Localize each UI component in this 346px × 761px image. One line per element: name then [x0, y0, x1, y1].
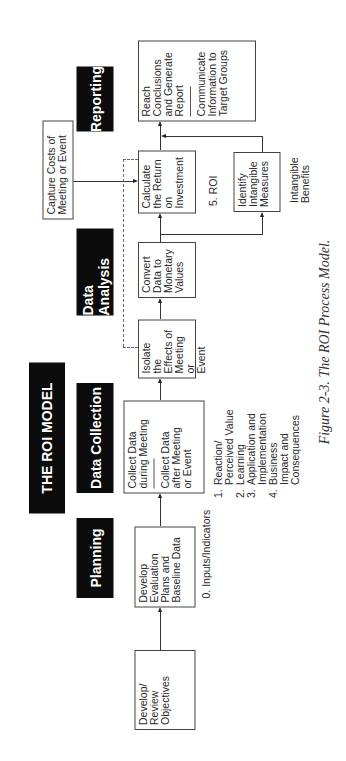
phase-label-data-collection: Data Collection	[76, 383, 113, 493]
arrow-head	[158, 607, 162, 612]
arrow-head	[158, 121, 162, 126]
box-text-reach: Reach Conclusions and Generate Report	[141, 45, 185, 116]
box-develop-evaluation-plans: Develop Evaluation Plans and Baseline Da…	[134, 526, 195, 607]
box-identify-intangibles: Identify Intangible Measures	[233, 152, 280, 212]
dashed-connector-top	[123, 159, 138, 160]
connector-branch-up	[262, 217, 263, 234]
box-capture-costs: Capture Costs of Meeting or Event	[42, 120, 73, 219]
levels-list: 1. Reaction/ Perceived Value 2. Learning…	[213, 398, 305, 498]
box-text: Capture Costs of Meeting or Event	[45, 125, 67, 214]
connector-identify-up	[262, 136, 263, 152]
connector-collect-to-isolate	[160, 383, 161, 400]
box-develop-review-objectives: Develop/ Review Objectives	[134, 650, 195, 730]
connector-convert-to-calculate	[160, 218, 161, 242]
phase-label-data-analysis: Data Analysis	[76, 228, 113, 315]
box-text: Isolate the Effects of Meeting or Event	[141, 324, 207, 373]
box-calculate-roi: Calculate the Return on Investment	[138, 150, 196, 213]
annotation-inputs: 0. Inputs/Indicators	[201, 505, 215, 598]
box-text: Convert Data to Monetary Values	[141, 247, 185, 293]
box-text: Calculate the Return on Investment	[141, 155, 185, 208]
dashed-connector-bottom	[123, 347, 138, 348]
box-text: Identify Intangible Measures	[236, 157, 269, 207]
box-convert-data: Convert Data to Monetary Values	[138, 242, 196, 298]
level-text: Application and Implementation	[246, 413, 268, 485]
box-text: Develop/ Review Objectives	[137, 655, 170, 725]
divider	[190, 86, 191, 116]
connector-identify-left	[166, 136, 263, 137]
divider	[153, 458, 154, 488]
arrow-head	[161, 134, 166, 138]
arrow-head	[260, 212, 264, 217]
phase-reporting-text: Reporting	[76, 66, 113, 131]
box-collect-data: Collect Data during Meeting Collect Data…	[123, 400, 204, 493]
level-item: 4. Business Impact and Consequences	[268, 398, 301, 498]
phase-data-collection-text: Data Collection	[76, 383, 113, 493]
annotation-roi: 5. ROI	[208, 160, 222, 206]
box-text-after: Collect Data after Meeting or Event	[159, 405, 192, 488]
box-text-communicate: Communicate Information to Target Groups	[196, 45, 229, 116]
arrow-head	[158, 378, 162, 383]
box-isolate-effects: Isolate the Effects of Meeting or Event	[138, 319, 196, 378]
connector-branch-to-identify	[160, 234, 263, 235]
level-text: Business Impact and Consequences	[268, 415, 301, 485]
box-reach-conclusions: Reach Conclusions and Generate Report Co…	[138, 40, 256, 121]
dashed-connector-vertical	[123, 159, 124, 347]
arrow-head	[158, 213, 162, 218]
level-item: 1. Reaction/ Perceived Value	[213, 398, 235, 498]
title-text: THE ROI MODEL	[29, 362, 65, 513]
connector-isolate-to-convert	[160, 303, 161, 319]
title-label: THE ROI MODEL	[29, 362, 65, 513]
phase-data-analysis-text: Data Analysis	[76, 228, 113, 315]
level-number: 1.	[213, 485, 235, 498]
figure-caption: Figure 2-3. The ROI Process Model.	[314, 192, 336, 492]
box-text: Develop Evaluation Plans and Baseline Da…	[137, 531, 181, 602]
connector-capture-to-calculate	[73, 181, 133, 182]
phase-planning-text: Planning	[76, 518, 113, 598]
connector-plans-to-collect	[160, 498, 161, 526]
level-number: 4.	[268, 485, 301, 498]
arrow-head	[158, 298, 162, 303]
phase-label-reporting: Reporting	[76, 66, 113, 131]
level-text: Reaction/ Perceived Value	[213, 409, 235, 485]
annotation-intangible-text: Intangible Benefits	[289, 157, 311, 203]
phase-label-planning: Planning	[76, 518, 113, 598]
connector-calculate-to-reach	[160, 126, 161, 150]
figure-caption-text: Figure 2-3. The ROI Process Model.	[314, 192, 336, 492]
box-text-during: Collect Data during Meeting	[126, 405, 148, 488]
arrow-head	[158, 493, 162, 498]
annotation-roi-text: 5. ROI	[208, 160, 219, 206]
annotation-intangible-benefits: Intangible Benefits	[289, 157, 313, 203]
level-item: 3. Application and Implementation	[246, 398, 268, 498]
level-number: 3.	[246, 485, 268, 498]
connector-objectives-to-plans	[160, 612, 161, 650]
annotation-inputs-text: 0. Inputs/Indicators	[201, 505, 212, 598]
